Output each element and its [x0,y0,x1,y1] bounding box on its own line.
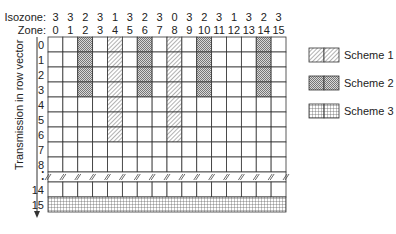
grid-cell [48,112,63,127]
grid-cell [108,182,123,197]
grid-cell [182,157,197,172]
grid-cell [241,97,256,112]
grid-cell [271,97,286,112]
transmission-grid [0,0,396,234]
grid-cell [256,182,271,197]
grid-cell [212,67,227,82]
grid-cell [63,182,78,197]
legend [309,48,339,118]
grid-cell [78,182,93,197]
grid-cell [137,112,152,127]
grid-cell [122,127,137,142]
grid-cell [93,97,108,112]
grid-cell [182,67,197,82]
grid-cell [78,142,93,157]
grid-cell [63,157,78,172]
grid-cell [78,157,93,172]
grid-cell [48,127,63,142]
grid-cell [167,37,182,52]
grid-cell [227,112,242,127]
grid-cell [241,142,256,157]
grid-cell [63,82,78,97]
grid-cell [93,67,108,82]
grid-cell [63,97,78,112]
grid-cell [122,112,137,127]
grid-cell [197,157,212,172]
grid-cell [227,157,242,172]
grid-cell [93,112,108,127]
grid-cell [152,97,167,112]
grid-cell [63,112,78,127]
grid-cell [241,37,256,52]
grid-cell [48,157,63,172]
grid-cell [137,142,152,157]
grid-cell [122,67,137,82]
grid-cell [137,67,152,82]
scheme3-row [48,197,286,212]
grid-cell [167,127,182,142]
grid-cell [63,127,78,142]
grid-cell [182,97,197,112]
grid-cell [227,52,242,67]
grid-cell [78,127,93,142]
grid-cell [271,182,286,197]
grid-cell [212,182,227,197]
grid-cell [48,182,63,197]
legend-label: Scheme 3 [344,105,394,117]
grid-cell [182,52,197,67]
grid-cell [122,157,137,172]
grid-cell [137,127,152,142]
grid-cell [271,142,286,157]
grid-cell [227,182,242,197]
grid-cell [227,142,242,157]
grid-cell [182,182,197,197]
grid-cell [48,37,63,52]
legend-label: Scheme 2 [344,77,394,89]
grid-cell [212,142,227,157]
grid-cell [167,112,182,127]
grid-cell [256,157,271,172]
grid-cell [63,67,78,82]
grid-cell [241,82,256,97]
grid-cell [93,37,108,52]
axis-arrow-icon [34,211,40,218]
grid-cell [197,112,212,127]
grid-cell [197,82,212,97]
grid-cell [256,52,271,67]
grid-cell [137,82,152,97]
grid-cell [212,52,227,67]
grid-cell [197,97,212,112]
grid-cell [152,52,167,67]
grid-cell [182,142,197,157]
grid-cell [197,67,212,82]
grid-cell [48,142,63,157]
grid-cell [152,37,167,52]
grid-cell [271,37,286,52]
grid-cell [78,97,93,112]
grid-cell [212,157,227,172]
grid-cell [78,112,93,127]
grid-cell [256,142,271,157]
grid-cell [197,127,212,142]
grid-cell [167,97,182,112]
grid-cell [271,82,286,97]
grid-cell [227,97,242,112]
grid-cell [241,182,256,197]
grid-cell [241,112,256,127]
grid-cell [93,142,108,157]
grid-cell [93,82,108,97]
grid-cell [108,82,123,97]
grid-cell [167,67,182,82]
grid-cell [93,157,108,172]
grid-cell [48,52,63,67]
grid-cell [152,142,167,157]
grid-cell [78,67,93,82]
grid-cell [212,37,227,52]
grid-cell [271,67,286,82]
grid-cell [227,67,242,82]
grid-cell [78,52,93,67]
grid-cell [137,97,152,112]
grid-cell [122,37,137,52]
grid-cell [122,82,137,97]
grid-cell [167,82,182,97]
